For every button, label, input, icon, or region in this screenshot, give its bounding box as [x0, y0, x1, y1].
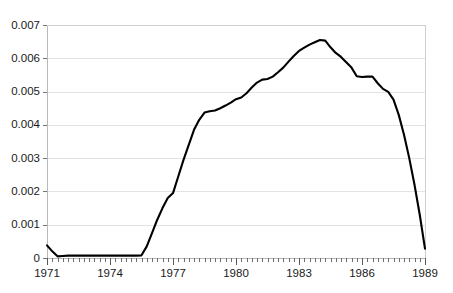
x-tick-label: 1977	[160, 267, 186, 279]
x-tick-label: 1974	[97, 267, 123, 279]
y-tick-label: 0.007	[11, 19, 40, 31]
chart-container: 00.0010.0020.0030.0040.0050.0060.007 197…	[0, 0, 453, 293]
y-axis-ticks	[43, 26, 47, 259]
x-axis-tick-labels: 1971197419771980198319861989	[34, 267, 438, 279]
y-tick-label: 0	[34, 252, 40, 264]
y-tick-label: 0.005	[11, 85, 40, 97]
y-tick-label: 0.001	[11, 218, 40, 230]
x-axis-ticks	[48, 258, 426, 265]
x-tick-label: 1989	[412, 267, 438, 279]
x-tick-label: 1986	[349, 267, 375, 279]
line-chart: 00.0010.0020.0030.0040.0050.0060.007 197…	[0, 0, 453, 293]
y-axis-tick-labels: 00.0010.0020.0030.0040.0050.0060.007	[11, 19, 40, 264]
x-tick-label: 1971	[34, 267, 60, 279]
y-tick-label: 0.003	[11, 152, 40, 164]
y-tick-label: 0.004	[11, 118, 40, 130]
x-tick-label: 1980	[223, 267, 249, 279]
y-tick-label: 0.006	[11, 52, 40, 64]
x-tick-label: 1983	[286, 267, 312, 279]
y-tick-label: 0.002	[11, 185, 40, 197]
plot-background	[47, 25, 425, 258]
